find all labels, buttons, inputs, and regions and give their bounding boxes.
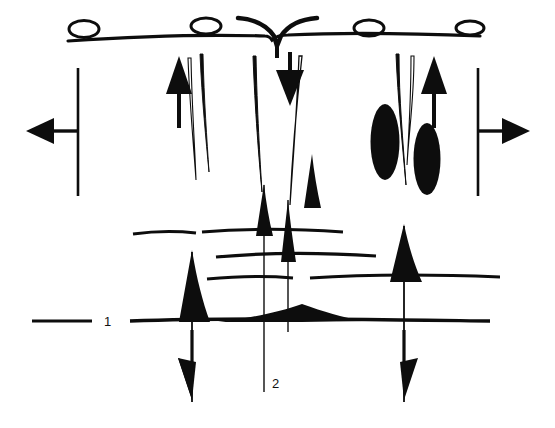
solid-ellipse-left bbox=[371, 104, 400, 180]
horizon-label-2: 2 bbox=[272, 376, 279, 391]
figure-background bbox=[0, 0, 555, 428]
horizon-label-1: 1 bbox=[104, 314, 111, 329]
solid-ellipse-right bbox=[414, 123, 441, 195]
cross-section-diagram: 1 2 bbox=[0, 0, 555, 428]
figure-root: 1 2 bbox=[0, 0, 555, 428]
